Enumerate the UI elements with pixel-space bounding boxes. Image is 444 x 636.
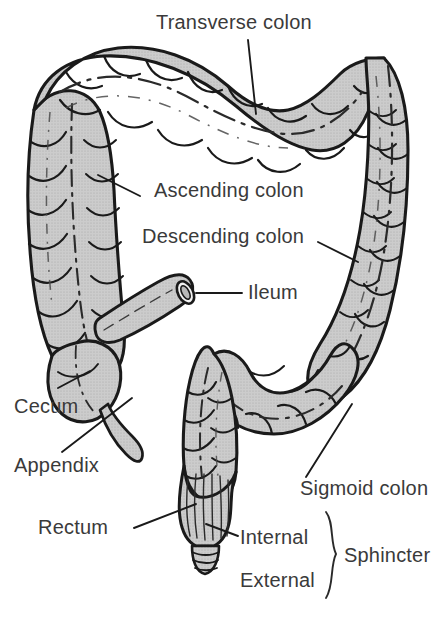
label-rectum: Rectum	[38, 517, 108, 537]
label-ascending-colon: Ascending colon	[154, 180, 304, 200]
diagram-canvas: Transverse colon Ascending colon Descend…	[0, 0, 444, 636]
label-descending-colon: Descending colon	[142, 226, 304, 246]
colon-illustration	[0, 0, 444, 636]
label-external: External	[240, 570, 315, 590]
label-transverse-colon: Transverse colon	[156, 12, 312, 32]
anal-canal-shape	[192, 546, 219, 574]
leader-descending-colon	[318, 242, 358, 262]
label-cecum: Cecum	[14, 396, 78, 416]
label-internal: Internal	[240, 527, 308, 547]
sphincter-brace	[326, 512, 336, 598]
label-appendix: Appendix	[14, 455, 99, 475]
label-sphincter: Sphincter	[344, 545, 430, 565]
label-ileum: Ileum	[248, 282, 298, 302]
appendix-shape	[100, 404, 143, 461]
label-sigmoid-colon: Sigmoid colon	[300, 478, 428, 498]
